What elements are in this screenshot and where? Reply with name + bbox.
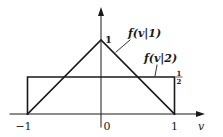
- x-axis-label: v: [198, 120, 205, 133]
- y-tick-label-1: 1: [105, 34, 112, 45]
- x-tick-label: −1: [15, 120, 31, 133]
- y-tick-label-half-denominator: 2: [177, 77, 182, 86]
- labels-layer: −101v112f(v|1)f(v|2): [15, 27, 205, 133]
- chart: −101v112f(v|1)f(v|2): [0, 0, 223, 137]
- axes: [10, 7, 205, 127]
- annotation-f-v-2-leader: [155, 65, 157, 76]
- x-tick-label: 1: [171, 120, 178, 133]
- x-axis-arrow-icon: [196, 111, 205, 117]
- annotation-f-v-2: f(v|2): [143, 52, 177, 65]
- annotation-f-v-1: f(v|1): [127, 27, 161, 40]
- y-axis-arrow-icon: [98, 7, 104, 16]
- annotation-f-v-1-leader: [116, 40, 130, 52]
- x-tick-label: 0: [104, 120, 111, 133]
